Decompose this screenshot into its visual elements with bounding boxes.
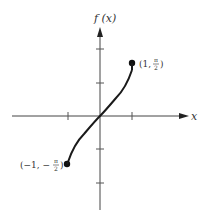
x-axis-label: x <box>191 110 198 123</box>
svg-text:): ) <box>60 160 64 170</box>
chart-canvas: f (x) x (1, π 2 ) (−1, − π 2 ) <box>0 0 205 219</box>
top-point-label: (1, π 2 ) <box>139 56 164 71</box>
svg-text:): ) <box>160 59 164 69</box>
svg-text:(−1, −: (−1, − <box>20 160 50 170</box>
svg-text:2: 2 <box>54 165 58 172</box>
y-axis-label: f (x) <box>93 12 116 25</box>
svg-text:2: 2 <box>154 64 158 71</box>
x-axis-arrow-icon <box>179 113 189 119</box>
bottom-point-label: (−1, − π 2 ) <box>20 157 64 172</box>
svg-text:π: π <box>54 157 58 164</box>
svg-text:(1,: (1, <box>139 59 151 69</box>
y-axis-arrow-icon <box>97 27 103 37</box>
svg-text:π: π <box>154 56 158 63</box>
